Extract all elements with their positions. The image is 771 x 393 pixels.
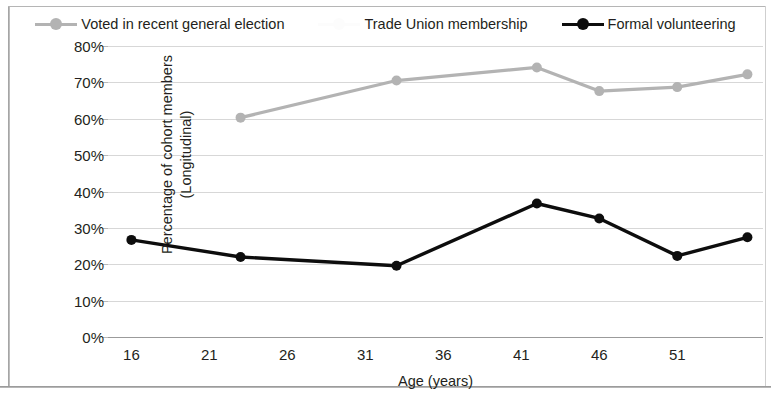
y-axis-title: Percentage of cohort members(Longitudina… <box>158 40 195 270</box>
y-tick-label: 0% <box>82 329 104 346</box>
figure-border-left <box>8 6 10 387</box>
x-tick-label: 41 <box>513 346 530 363</box>
data-point-marker <box>532 62 542 72</box>
legend-item-label: Formal volunteering <box>608 17 736 32</box>
series-line <box>131 204 747 266</box>
legend-item[interactable]: Trade Union membership <box>318 17 527 32</box>
x-tick-label: 16 <box>123 346 140 363</box>
y-tick-label: 80% <box>74 38 104 55</box>
y-tick-label: 70% <box>74 74 104 91</box>
plot-area: 0%10%20%30%40%50%60%70%80% 1621263136414… <box>108 46 763 337</box>
y-tick-label: 40% <box>74 183 104 200</box>
y-tick-label: 10% <box>74 292 104 309</box>
data-point-marker <box>742 69 752 79</box>
legend-item[interactable]: Formal volunteering <box>562 17 736 32</box>
y-axis-title-line: (Longitudinal) <box>177 40 196 270</box>
data-point-marker <box>742 232 752 242</box>
figure-border-top <box>8 6 765 7</box>
x-tick-label: 21 <box>201 346 218 363</box>
data-point-marker <box>594 86 604 96</box>
y-tick-label: 60% <box>74 110 104 127</box>
y-tick-label: 30% <box>74 219 104 236</box>
legend-marker-icon <box>318 17 360 31</box>
chart-figure: Voted in recent general electionTrade Un… <box>0 0 771 393</box>
x-tick-label: 31 <box>357 346 374 363</box>
x-axis-line <box>108 337 763 338</box>
y-axis-title-line: Percentage of cohort members <box>158 40 177 270</box>
x-tick-label: 36 <box>435 346 452 363</box>
data-point-marker <box>236 113 246 123</box>
x-tick-label: 46 <box>591 346 608 363</box>
series-line <box>241 67 748 117</box>
data-series-layer <box>108 46 763 337</box>
series-2 <box>126 199 752 271</box>
x-tick-label: 51 <box>669 346 686 363</box>
x-axis-title: Age (years) <box>108 373 763 389</box>
y-tick-label: 20% <box>74 256 104 273</box>
data-point-marker <box>392 76 402 86</box>
data-point-marker <box>392 261 402 271</box>
figure-border-right <box>765 6 766 387</box>
data-point-marker <box>236 252 246 262</box>
data-point-marker <box>126 235 136 245</box>
legend-marker-icon <box>562 17 604 31</box>
data-point-marker <box>532 199 542 209</box>
legend-item-label: Trade Union membership <box>364 17 527 32</box>
x-tick-label: 26 <box>279 346 296 363</box>
y-tick-label: 50% <box>74 147 104 164</box>
data-point-marker <box>672 251 682 261</box>
data-point-marker <box>672 82 682 92</box>
series-0 <box>236 62 753 122</box>
legend-item-label: Voted in recent general election <box>81 17 284 32</box>
data-point-marker <box>594 213 604 223</box>
legend-marker-icon <box>35 17 77 31</box>
legend-item[interactable]: Voted in recent general election <box>35 17 284 32</box>
chart-legend: Voted in recent general electionTrade Un… <box>0 10 771 38</box>
